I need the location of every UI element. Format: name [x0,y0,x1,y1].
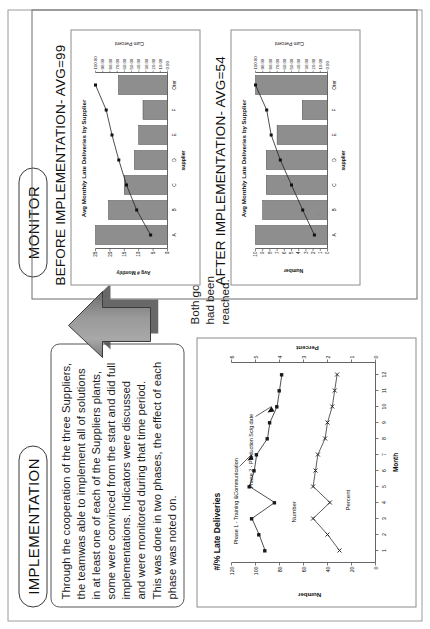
svg-text:6: 6 [380,468,386,471]
pareto-before-svg: Avg Monthly Late Deliveries by Supplier … [71,32,197,284]
svg-text:5: 5 [253,355,259,358]
line-chart-card: #/% Late Deliveries 0 20 40 60 80 100 12… [196,337,416,607]
svg-text:30.00: 30.00 [143,58,148,69]
svg-text:2: 2 [325,355,331,358]
pareto-before-subtitle: Avg Monthly Late Deliveries by Supplier [79,99,86,217]
svg-text:F: F [171,108,176,111]
svg-text:1: 1 [380,548,386,551]
pareto-after-y-label: Number [283,267,303,273]
svg-text:90.00: 90.00 [260,58,265,69]
svg-text:C: C [171,182,176,186]
svg-text:0: 0 [373,566,379,569]
line-chart-svg: #/% Late Deliveries 0 20 40 60 80 100 12… [197,340,413,606]
svg-text:5: 5 [150,251,155,254]
svg-text:9: 9 [380,420,386,423]
pareto-after-x-label: supplier [339,150,345,170]
svg-text:20: 20 [107,251,112,257]
svg-text:50.00: 50.00 [129,58,134,69]
slide-page: IMPLEMENTATION Through the cooperation o… [0,0,430,629]
svg-text:100: 100 [253,566,259,575]
line-chart-title: #/% Late Deliveries [211,492,221,570]
svg-text:E: E [171,133,176,136]
svg-text:0.00: 0.00 [165,60,170,69]
svg-text:3: 3 [301,355,307,358]
svg-text:60.00: 60.00 [121,58,126,69]
svg-text:80.00: 80.00 [107,58,112,69]
line-y-ticks: 0 20 40 60 80 100 120 [229,562,379,575]
svg-text:20.00: 20.00 [150,58,155,69]
svg-text:5: 5 [380,484,386,487]
svg-text:25: 25 [93,251,98,257]
svg-text:3: 3 [303,251,308,254]
svg-text:4: 4 [296,251,301,254]
svg-text:12: 12 [380,371,386,377]
svg-text:20: 20 [349,566,355,572]
before-implementation-title: BEFORE IMPLEMENTATION- AVG=99 [52,44,67,285]
svg-text:20.00: 20.00 [310,58,315,69]
svg-text:E: E [331,133,336,136]
svg-text:9: 9 [260,251,265,254]
svg-text:D: D [331,157,336,161]
svg-text:4: 4 [277,355,283,358]
svg-text:90.00: 90.00 [100,58,105,69]
implementation-pill-label: IMPLEMENTATION [24,458,41,595]
line-x-ticks: 1 2 3 4 5 6 7 8 9 10 11 12 [375,371,386,551]
pareto-after-y-ticks: 0 1 2 3 4 5 6 7 8 9 10 [253,248,330,256]
svg-text:10.00: 10.00 [157,58,162,69]
svg-text:11: 11 [380,387,386,392]
svg-text:0.00: 0.00 [325,60,330,69]
svg-text:D: D [171,157,176,161]
svg-text:40.00: 40.00 [296,58,301,69]
svg-text:C: C [331,182,336,186]
svg-text:2: 2 [310,251,315,254]
svg-text:Oter: Oter [331,79,336,89]
pareto-before-y-label: Avg # Monthly [116,269,150,275]
svg-text:0: 0 [165,251,170,254]
svg-text:60: 60 [301,566,307,572]
svg-text:5: 5 [289,251,294,254]
svg-text:10: 10 [253,251,258,257]
svg-text:Oter: Oter [171,79,176,89]
svg-text:60.00: 60.00 [281,58,286,69]
svg-text:B: B [331,208,336,211]
after-implementation-title: AFTER IMPLEMENTATION- AVG=54 [212,55,227,285]
svg-text:8: 8 [380,436,386,439]
svg-text:40: 40 [325,566,331,572]
svg-text:A: A [331,232,336,236]
pareto-before-card: Avg Monthly Late Deliveries by Supplier … [70,29,200,285]
svg-text:1: 1 [317,251,322,254]
series-percent-line [313,374,339,550]
svg-text:4: 4 [380,500,386,503]
svg-text:3: 3 [380,516,386,519]
document-page-frame: IMPLEMENTATION Through the cooperation o… [0,0,430,629]
svg-text:40.00: 40.00 [136,58,141,69]
implementation-body-text: Through the cooperation of the three Sup… [58,349,179,599]
svg-text:10.00: 10.00 [317,58,322,69]
pareto-after-bars [255,75,327,244]
svg-text:2: 2 [380,532,386,535]
line-x-axis-label: Month [391,452,398,471]
annotation-phase-2: Phase 2 - Production Sc/g date [247,413,253,488]
svg-text:A: A [171,232,176,236]
svg-text:7: 7 [274,251,279,254]
pareto-before-x-ticks: A B C D E F Oter [171,79,176,236]
svg-text:F: F [331,108,336,111]
annotation-phase-1: Phase 1 - Training &Communication [232,458,238,544]
svg-text:15: 15 [121,251,126,257]
pareto-before-x-label: supplier [179,150,185,170]
svg-text:120: 120 [229,566,235,575]
svg-text:80: 80 [277,566,283,572]
pareto-after-svg: Avg Monthly Late Deliveries by Supplier … [231,32,357,284]
pareto-after-x-ticks: A B C D E F Oter [331,79,336,236]
svg-text:0: 0 [325,251,330,254]
pareto-after-subtitle: Avg Monthly Late Deliveries by Supplier [239,99,246,217]
svg-text:80.00: 80.00 [267,58,272,69]
svg-text:7: 7 [380,452,386,455]
line-y2-axis-label: Percent [296,344,319,351]
pareto-before-bars [95,75,167,244]
pareto-before-y2-ticks: 0.00 10.00 20.00 30.00 40.00 50.00 60.00… [93,55,170,72]
svg-text:6: 6 [229,355,235,358]
svg-text:0: 0 [373,355,379,358]
pareto-after-y2-label: Cum Percent [274,40,304,46]
svg-text:30.00: 30.00 [303,58,308,69]
